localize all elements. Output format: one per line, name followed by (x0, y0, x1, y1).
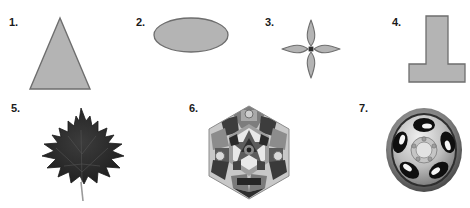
shapes-worksheet-figure: 1. 2. 3. 4. (0, 0, 470, 208)
item-6-number-label: 6. (189, 103, 198, 114)
tee-shape (406, 14, 468, 84)
item-1-number-label: 1. (9, 17, 18, 28)
four-pointed-star-shape (280, 18, 342, 80)
maple-leaf-shape (34, 104, 130, 204)
item-5-number-label: 5. (11, 103, 20, 114)
item-3-number-label: 3. (265, 17, 274, 28)
ellipse-shape (152, 15, 230, 55)
item-7-number-label: 7. (359, 103, 368, 114)
item-2-number-label: 2. (136, 17, 145, 28)
item-4-number-label: 4. (392, 17, 401, 28)
kaleidoscope-shape (203, 104, 295, 202)
alloy-wheel-shape (381, 104, 467, 196)
triangle-shape (28, 16, 92, 92)
